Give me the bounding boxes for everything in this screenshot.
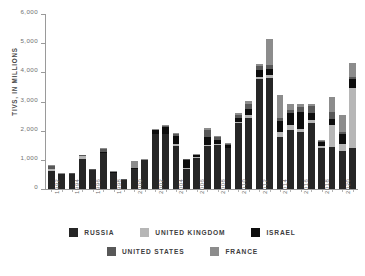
y-axis-tick-label: 5,000 [21,37,38,44]
bar-2011 [245,101,252,189]
bar-series-group [46,14,358,189]
x-axis-ticks: 1992199419961998200020022004200620082010… [46,190,358,230]
legend-label: UNITED STATES [122,248,184,255]
bar-segment-israel [183,160,190,168]
x-axis-tick-mark [186,190,187,192]
x-axis-tick-mark [311,190,312,192]
bar-segment-israel [204,137,211,145]
bar-segment-israel [256,70,263,77]
y-axis-tick: 5,000 [0,43,46,44]
bar-segment-france [349,63,356,77]
legend-swatch-icon [69,228,78,237]
legend-item-france[interactable]: FRANCE [210,247,258,256]
x-axis-tick-mark [228,190,229,192]
x-axis-tick-mark [166,190,167,192]
x-axis-tick-label: 1992 [54,179,60,194]
bar-segment-israel [349,79,356,87]
bar-2016 [297,104,304,189]
legend-row-1: RUSSIAUNITED KINGDOMISRAEL [0,228,365,237]
y-axis-tick: 0 [0,189,46,190]
bar-segment-israel [287,113,294,125]
bar-segment-russia [256,79,263,189]
legend-item-israel[interactable]: ISRAEL [251,228,295,237]
x-axis-tick-label: 2014 [282,179,288,194]
y-axis-tick: 3,000 [0,102,46,103]
x-axis-tick-mark [322,190,323,192]
x-axis-tick-mark [72,190,73,192]
legend-swatch-icon [251,228,260,237]
x-axis-tick-label: 2018 [324,179,330,194]
bar-segment-israel [277,121,284,132]
legend-label: FRANCE [225,248,258,255]
bar-2015 [287,104,294,189]
y-axis-tick: 4,000 [0,72,46,73]
legend-item-russia[interactable]: RUSSIA [69,228,114,237]
x-axis-tick-mark [290,190,291,192]
x-axis-tick-label: 2012 [262,179,268,194]
bar-segment-united-kingdom [339,144,346,151]
legend-item-united-states[interactable]: UNITED STATES [107,247,184,256]
legend-row-2: UNITED STATESFRANCE [0,247,365,256]
legend-swatch-icon [140,228,149,237]
y-axis-tick-label: 4,000 [21,66,38,73]
bar-segment-israel [308,113,315,120]
x-axis-tick-mark [207,190,208,192]
x-axis-tick-label: 2010 [241,179,247,194]
y-axis-tick-label: 0 [34,183,38,190]
x-axis-tick-label: 2006 [199,179,205,194]
bar-segment-united-kingdom [329,125,336,147]
x-axis-tick-mark [103,190,104,192]
x-axis-tick-mark [280,190,281,192]
legend-label: ISRAEL [266,229,295,236]
y-axis-tick: 2,000 [0,131,46,132]
x-axis-tick-mark [353,190,354,192]
x-axis-tick-label: 2000 [137,179,143,194]
bar-segment-united-states [204,130,211,137]
bar-segment-israel [266,69,273,76]
x-axis-tick-label: 1996 [95,179,101,194]
legend-label: RUSSIA [84,229,114,236]
x-axis-tick-label: 2002 [158,179,164,194]
y-axis-tick-label: 6,000 [21,8,38,15]
bar-segment-france [329,97,336,112]
x-axis-tick-label: 2020 [345,179,351,194]
bar-2021 [349,63,356,189]
bar-segment-israel [162,127,169,134]
y-axis-tick-label: 2,000 [21,125,38,132]
chart-legend: RUSSIAUNITED KINGDOMISRAEL UNITED STATES… [0,228,365,270]
y-axis-tick-label: 1,000 [21,154,38,161]
y-axis-title: TIVS, IN MILLIONS [11,22,18,142]
x-axis-tick-mark [124,190,125,192]
bar-segment-france [339,115,346,133]
bar-segment-united-kingdom [349,88,356,149]
x-axis-tick-mark [249,190,250,192]
x-axis-tick-mark [197,190,198,192]
x-axis-tick-mark [114,190,115,192]
x-axis-tick-mark [145,190,146,192]
legend-swatch-icon [210,247,219,256]
x-axis-tick-label: 2004 [178,179,184,194]
x-axis-tick-mark [259,190,260,192]
x-axis-tick-mark [218,190,219,192]
x-axis-tick-mark [332,190,333,192]
legend-item-united-kingdom[interactable]: UNITED KINGDOM [140,228,225,237]
x-axis-tick-label: 1994 [74,179,80,194]
bar-segment-israel [297,112,304,129]
y-axis-tick: 1,000 [0,160,46,161]
y-axis-tick: 6,000 [0,14,46,15]
x-axis-tick-label: 2016 [303,179,309,194]
x-axis-tick-label: 1998 [116,179,122,194]
x-axis-tick-mark [155,190,156,192]
x-axis-tick-mark [82,190,83,192]
x-axis-tick-mark [176,190,177,192]
bar-2010 [235,113,242,189]
bar-2017 [308,104,315,189]
stacked-bar-chart: TIVS, IN MILLIONS 01,0002,0003,0004,0005… [0,0,365,276]
x-axis-tick-mark [62,190,63,192]
x-axis-tick-label: 2008 [220,179,226,194]
y-axis-tick-label: 3,000 [21,96,38,103]
bar-segment-france [277,95,284,119]
bar-2013 [266,39,273,189]
bar-segment-united-states [308,106,315,113]
bar-2014 [277,95,284,190]
